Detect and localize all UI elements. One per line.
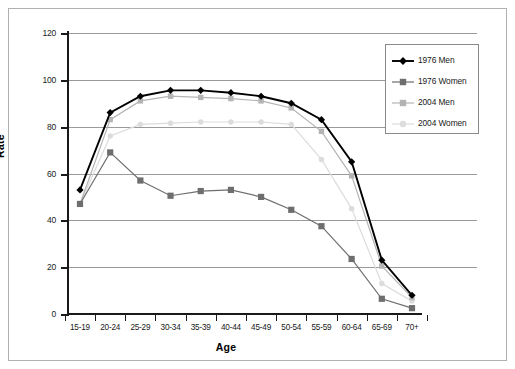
x-tick-label: 70+: [389, 323, 435, 332]
gridline: [68, 33, 477, 34]
y-tick-label: 20: [26, 262, 56, 272]
legend-item: 2004 Women: [391, 117, 477, 131]
y-tick-label: 80: [26, 122, 56, 132]
x-tick-mark: [337, 315, 338, 321]
x-tick-mark: [276, 315, 277, 321]
gridline: [68, 174, 477, 175]
legend-item: 2004 Men: [391, 96, 477, 110]
x-tick-mark: [397, 315, 398, 321]
legend-label: 1976 Men: [418, 55, 454, 65]
legend-label: 1976 Women: [418, 76, 467, 86]
y-tick-mark: [61, 80, 68, 82]
x-tick-mark: [186, 315, 187, 321]
legend-swatch-square-icon: [391, 96, 415, 110]
x-tick-mark: [367, 315, 368, 321]
y-tick-label: 0: [26, 309, 56, 319]
y-tick-label: 120: [26, 28, 56, 38]
x-tick-mark: [95, 315, 96, 321]
gridline: [68, 220, 477, 221]
gridline: [68, 267, 477, 268]
x-tick-mark: [427, 315, 428, 321]
y-tick-mark: [61, 174, 68, 176]
x-tick-mark: [216, 315, 217, 321]
y-axis-tick-labels: 020406080100120: [22, 0, 56, 369]
y-tick-label: 60: [26, 169, 56, 179]
y-tick-label: 40: [26, 215, 56, 225]
x-tick-mark: [125, 315, 126, 321]
legend-swatch-diamond-icon: [391, 54, 415, 68]
x-axis-title: Age: [0, 341, 452, 353]
legend-label: 2004 Men: [418, 97, 454, 107]
x-tick-mark: [65, 315, 66, 321]
legend-item: 1976 Women: [391, 75, 477, 89]
legend-swatch-circle-icon: [391, 117, 415, 131]
x-tick-mark: [306, 315, 307, 321]
x-tick-mark: [246, 315, 247, 321]
chart-figure: 020406080100120 Rate 15-1920-2425-2930-3…: [0, 0, 515, 369]
legend-label: 2004 Women: [418, 118, 467, 128]
x-axis-line: [67, 313, 422, 315]
chart-legend: 1976 Men1976 Women2004 Men2004 Women: [385, 44, 479, 134]
y-tick-mark: [61, 267, 68, 269]
y-tick-label: 100: [26, 75, 56, 85]
x-tick-mark: [155, 315, 156, 321]
y-tick-mark: [61, 220, 68, 222]
y-tick-mark: [61, 127, 68, 129]
y-tick-mark: [61, 33, 68, 35]
y-axis-title: Rate: [0, 134, 6, 158]
legend-swatch-square-icon: [391, 75, 415, 89]
legend-item: 1976 Men: [391, 54, 477, 68]
